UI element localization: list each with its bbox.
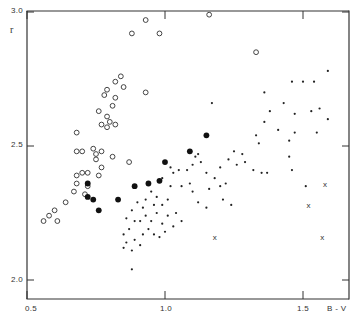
filled-circle-point — [115, 197, 121, 203]
dot-point — [316, 132, 318, 134]
open-circle-point — [105, 125, 110, 130]
open-circle-point — [74, 173, 79, 178]
dot-point — [161, 177, 163, 179]
dot-point — [192, 164, 194, 166]
dot-point — [255, 134, 257, 136]
dot-point — [150, 220, 152, 222]
filled-circle-point — [85, 194, 91, 200]
open-circle-point — [85, 170, 90, 175]
filled-circle-point — [96, 207, 102, 213]
dot-point — [233, 150, 235, 152]
dot-point — [125, 241, 127, 243]
x-point: x — [323, 180, 327, 189]
open-circle-point — [96, 109, 101, 114]
open-circle-point — [74, 149, 79, 154]
dot-point — [288, 156, 290, 158]
data-points: xxxx — [41, 12, 329, 270]
dot-point — [156, 196, 158, 198]
open-circle-point — [80, 170, 85, 175]
y-tick-label-2-5: 2.5 — [11, 140, 23, 149]
dot-point — [158, 236, 160, 238]
open-circle-point — [118, 74, 123, 79]
dot-point — [302, 81, 304, 83]
y-tick-label-3-0: 3.0 — [11, 6, 23, 15]
dot-point — [156, 212, 158, 214]
dot-point — [131, 249, 133, 251]
dot-point — [142, 207, 144, 209]
dot-point — [153, 204, 155, 206]
open-circle-point — [99, 165, 104, 170]
dot-point — [236, 164, 238, 166]
open-circle-point — [47, 213, 52, 218]
open-circle-point — [96, 173, 101, 178]
x-axis-label: B - V — [327, 304, 346, 313]
dot-point — [178, 169, 180, 171]
open-circle-point — [94, 152, 99, 157]
dot-point — [219, 185, 221, 187]
dot-point — [145, 215, 147, 217]
dot-point — [230, 204, 232, 206]
dot-point — [327, 70, 329, 72]
open-circle-point — [94, 157, 99, 162]
filled-circle-point — [90, 197, 96, 203]
open-circle-point — [113, 95, 118, 100]
dot-point — [125, 217, 127, 219]
x-point: x — [307, 201, 311, 210]
dot-point — [227, 158, 229, 160]
filled-circle-point — [85, 181, 91, 187]
dot-point — [261, 172, 263, 174]
dot-point — [318, 107, 320, 109]
dot-point — [288, 140, 290, 142]
x-tick-label-0-5: 0.5 — [25, 304, 37, 313]
dot-point — [291, 169, 293, 171]
dot-point — [310, 110, 312, 112]
plot-frame — [27, 11, 350, 300]
dot-point — [180, 185, 182, 187]
dot-point — [192, 190, 194, 192]
dot-point — [134, 220, 136, 222]
dot-point — [172, 225, 174, 227]
dot-point — [244, 161, 246, 163]
open-circle-point — [72, 189, 77, 194]
dot-point — [167, 199, 169, 201]
open-circle-point — [127, 160, 132, 165]
open-circle-point — [99, 149, 104, 154]
dot-point — [205, 207, 207, 209]
dot-point — [266, 172, 268, 174]
open-circle-point — [74, 181, 79, 186]
filled-circle-point — [204, 132, 210, 138]
open-circle-point — [110, 103, 115, 108]
open-circle-point — [254, 50, 259, 55]
open-circle-point — [143, 90, 148, 95]
dot-point — [327, 118, 329, 120]
dot-point — [139, 244, 141, 246]
open-circle-point — [121, 85, 126, 90]
open-circle-point — [52, 208, 57, 213]
scatter-plot: xxxx — [0, 0, 359, 322]
dot-point — [263, 121, 265, 123]
dot-point — [161, 223, 163, 225]
x-point: x — [213, 233, 217, 242]
open-circle-point — [105, 114, 110, 119]
dot-point — [197, 201, 199, 203]
dot-point — [208, 188, 210, 190]
x-tick-label-1-5: 1.5 — [297, 304, 309, 313]
dot-point — [128, 228, 130, 230]
open-circle-point — [102, 93, 107, 98]
dot-point — [123, 233, 125, 235]
dot-point — [186, 169, 188, 171]
y-axis-label: r — [10, 24, 14, 35]
x-point: x — [320, 233, 324, 242]
open-circle-point — [105, 87, 110, 92]
open-circle-point — [129, 31, 134, 36]
dot-point — [139, 220, 141, 222]
dot-point — [205, 172, 207, 174]
dot-point — [197, 153, 199, 155]
dot-point — [169, 185, 171, 187]
dot-point — [258, 142, 260, 144]
dot-point — [164, 231, 166, 233]
dot-point — [147, 228, 149, 230]
dot-point — [252, 169, 254, 171]
open-circle-point — [157, 31, 162, 36]
dot-point — [180, 220, 182, 222]
